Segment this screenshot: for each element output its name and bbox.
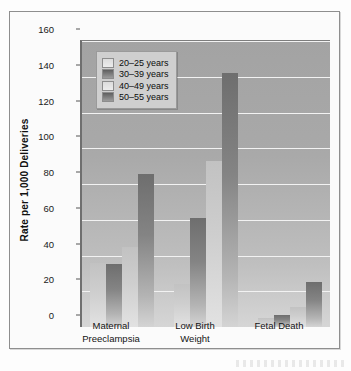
x-category-label-line: Fetal Death (234, 320, 324, 333)
legend-swatch-2 (102, 81, 114, 91)
y-tick-label-120: 120 (14, 95, 54, 106)
figure: Rate per 1,000 Deliveries 16014012010080… (0, 0, 351, 371)
legend: 20–25 years30–39 years40–49 years50–55 y… (96, 51, 177, 109)
legend-label-1: 30–39 years (119, 69, 169, 79)
plot-area: 20–25 years30–39 years40–49 years50–55 y… (80, 40, 330, 327)
bar-1-1 (190, 218, 206, 327)
x-category-label-2: Fetal Death (234, 320, 324, 333)
bar-0-1 (106, 264, 122, 327)
legend-swatch-3 (102, 92, 114, 102)
bar-1-3 (222, 73, 238, 327)
y-tick-label-140: 140 (14, 59, 54, 70)
y-tick-label-20: 20 (14, 274, 54, 285)
bar-0-3 (138, 174, 154, 327)
y-tick-label-160: 160 (14, 24, 54, 35)
x-category-label-0: MaternalPreeclampsia (66, 320, 156, 345)
legend-item-2: 40–49 years (102, 80, 169, 92)
figure-frame: Rate per 1,000 Deliveries 16014012010080… (9, 11, 340, 349)
gridline-120 (82, 113, 330, 114)
legend-item-1: 30–39 years (102, 69, 169, 81)
x-category-label-1: Low BirthWeight (150, 320, 240, 345)
x-category-label-line: Low Birth (150, 320, 240, 333)
x-category-label-line: Preeclampsia (66, 333, 156, 346)
scan-artifact (236, 360, 344, 367)
legend-label-2: 40–49 years (119, 81, 169, 91)
y-tick-mark-160 (76, 29, 80, 30)
gridline-160 (82, 41, 330, 42)
legend-item-3: 50–55 years (102, 92, 169, 104)
x-category-label-line: Weight (150, 333, 240, 346)
gridline-100 (82, 148, 330, 149)
bar-0-0 (90, 263, 106, 327)
legend-swatch-1 (102, 69, 114, 79)
bar-1-2 (206, 161, 222, 327)
legend-item-0: 20–25 years (102, 57, 169, 69)
y-tick-label-40: 40 (14, 238, 54, 249)
legend-label-0: 20–25 years (119, 58, 169, 68)
bar-0-2 (122, 247, 138, 327)
y-tick-label-60: 60 (14, 202, 54, 213)
legend-label-3: 50–55 years (119, 92, 169, 102)
y-tick-label-100: 100 (14, 131, 54, 142)
y-tick-label-0: 0 (14, 310, 54, 321)
y-tick-label-80: 80 (14, 167, 54, 178)
x-category-label-line: Maternal (66, 320, 156, 333)
legend-swatch-0 (102, 58, 114, 68)
